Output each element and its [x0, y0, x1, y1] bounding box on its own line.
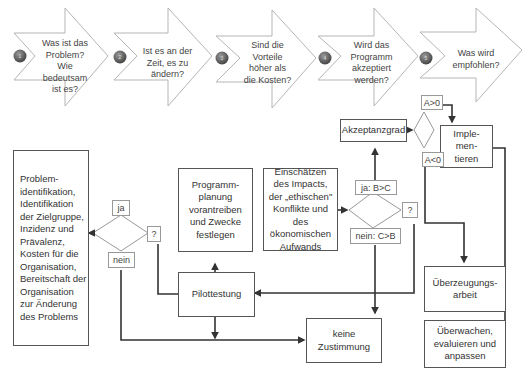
impact-assessment-box: Einschätzen des Impacts, der „ethischen"… [263, 168, 338, 251]
decision-diamond-3 [414, 112, 434, 148]
step-badge-1-number: 1 [13, 49, 27, 63]
decision-diamond-2 [349, 192, 401, 228]
decision-3-positive-label: A>0 [421, 95, 443, 110]
step-badge-3-number: 3 [215, 51, 229, 65]
programmplanung-box: Programm- planung vorantreiben und Zweck… [178, 168, 253, 252]
decision-1-yes-label: ja [112, 200, 130, 216]
implementieren-box: Imple- men- tieren [440, 125, 493, 168]
decision-3-negative-label: A<0 [422, 152, 444, 167]
decision-2-yes-label: ja: B>C [355, 180, 397, 195]
step-badge-5-number: 5 [419, 51, 433, 65]
step-2-question: Ist es an der Zeit, es zu ändern? [140, 46, 195, 81]
decision-2-no-label: nein: C>B [350, 228, 401, 244]
step-3-question: Sind die Vorteile höher als die Kosten? [240, 40, 295, 86]
step-1-question: Was ist das Problem? Wie bedeutsam ist e… [40, 38, 90, 96]
ueberwachen-box: Überwachen, evaluieren und anpassen [424, 320, 506, 368]
pilottestung-box: Pilottestung [178, 272, 255, 317]
decision-diamond-1 [93, 215, 148, 251]
keine-zustimmung-box: keine Zustimmung [306, 318, 382, 363]
step-5-question: Was wird empfohlen? [448, 48, 504, 71]
problem-identification-box: Problem- identifikation, Identifikation … [13, 150, 89, 346]
decision-1-unknown-label: ? [147, 226, 161, 242]
step-4-question: Wird das Programm akzeptiert werden? [344, 40, 399, 86]
decision-1-no-label: nein [108, 252, 135, 268]
ueberzeugungsarbeit-box: Überzeugungs- arbeit [424, 266, 506, 312]
decision-2-unknown-label: ? [402, 202, 418, 218]
akzeptanzgrad-box: Akzeptanzgrad [340, 119, 407, 142]
step-badge-4-number: 4 [318, 51, 332, 65]
step-badge-2-number: 2 [113, 50, 127, 64]
